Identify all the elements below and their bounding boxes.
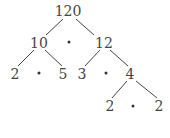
node-12: 12 [95, 36, 113, 50]
multiply-dot-icon [105, 72, 108, 75]
node-120: 120 [55, 4, 82, 18]
tree-edge [46, 19, 63, 35]
node-5: 5 [59, 67, 68, 81]
node-2: 2 [106, 99, 115, 113]
multiply-dot-icon [132, 105, 135, 108]
node-10: 10 [30, 36, 48, 50]
tree-edge [45, 50, 62, 66]
node-4: 4 [126, 67, 135, 81]
tree-edge [136, 81, 157, 98]
multiply-dot-icon [68, 41, 71, 44]
node-2: 2 [155, 99, 164, 113]
multiply-dot-icon [38, 72, 41, 75]
tree-edge [85, 50, 100, 66]
node-3: 3 [78, 67, 87, 81]
tree-edge [112, 81, 127, 98]
tree-edge [110, 50, 128, 66]
tree-edge [76, 19, 94, 35]
factor-tree-diagram: 120 10 12 2 5 3 4 2 2 [0, 0, 170, 138]
tree-edge [18, 50, 34, 66]
node-2: 2 [11, 67, 20, 81]
